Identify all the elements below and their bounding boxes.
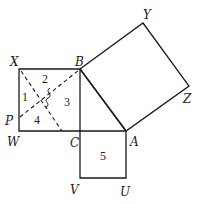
label-p: P: [4, 114, 14, 128]
label-v: V: [70, 183, 80, 197]
label-y: Y: [143, 8, 152, 22]
label-z: Z: [182, 92, 192, 106]
region-5: 5: [100, 149, 106, 163]
pythagorean-diagram: X B P W C A V U Y Z 1 2 3 4 5: [0, 0, 201, 204]
label-u: U: [120, 185, 131, 199]
square-byza: [80, 23, 189, 131]
region-3: 3: [64, 95, 70, 109]
label-a: A: [129, 135, 139, 149]
region-1: 1: [22, 90, 28, 104]
label-x: X: [9, 55, 19, 69]
label-c: C: [70, 136, 79, 150]
label-b: B: [74, 55, 84, 69]
region-4: 4: [34, 113, 40, 127]
right-angle-mark-icon: [46, 88, 50, 107]
label-w: W: [7, 135, 21, 149]
region-2: 2: [42, 72, 48, 86]
square-xbcw: [19, 69, 80, 131]
hypotenuse-ab: [80, 69, 126, 131]
